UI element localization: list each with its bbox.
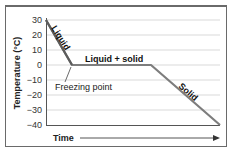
y-tick-neg40: −40 (27, 120, 42, 130)
cooling-curve-chart: 30 20 10 0 −10 −20 −30 −40 Temperature (… (0, 0, 230, 151)
y-tick-30: 30 (32, 15, 42, 25)
time-arrow-head-icon (213, 135, 220, 141)
y-tick-10: 10 (32, 45, 42, 55)
y-tick-20: 20 (32, 30, 42, 40)
liquid-solid-label: Liquid + solid (85, 54, 143, 64)
y-tick-neg30: −30 (27, 105, 42, 115)
axes (46, 18, 220, 126)
x-axis-label: Time (53, 133, 74, 143)
y-tick-0: 0 (37, 60, 42, 70)
solid-label: Solid (177, 81, 200, 103)
y-tick-labels: 30 20 10 0 −10 −20 −30 −40 (27, 15, 42, 130)
y-tick-neg20: −20 (27, 90, 42, 100)
freezing-point-label: Freezing point (55, 82, 113, 92)
y-tick-neg10: −10 (27, 75, 42, 85)
cooling-curve-line (46, 20, 220, 125)
liquid-label: Liquid (49, 24, 72, 52)
y-axis-label: Temperature (°C) (12, 37, 22, 109)
